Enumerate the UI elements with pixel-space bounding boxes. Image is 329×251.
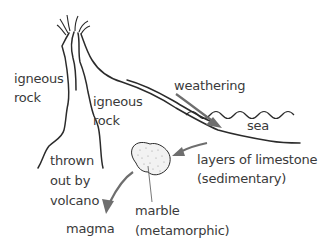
label-line: sea [247, 118, 269, 134]
label-sea: sea [247, 118, 269, 134]
label-line: weathering [174, 78, 245, 94]
label-thrown-out-by-volcano: thrown out by volcano [50, 153, 99, 209]
label-line: rock [14, 90, 64, 106]
marble-rock-icon [132, 142, 171, 202]
label-line: thrown [50, 153, 99, 169]
label-line: igneous [14, 71, 64, 87]
label-weathering: weathering [174, 78, 245, 94]
label-igneous-rock-left: igneous rock [14, 71, 64, 106]
label-marble: marble (metamorphic) [135, 203, 229, 239]
volcano-outline [38, 32, 300, 168]
label-line: volcano [50, 193, 99, 209]
rock-cycle-diagram: igneous rock igneous rock weathering sea… [0, 0, 329, 251]
label-line: (metamorphic) [135, 223, 229, 239]
label-line: rock [93, 113, 143, 129]
marble-to-magma-arrow-icon [102, 172, 133, 214]
label-line: igneous [93, 94, 143, 110]
label-line: (sedimentary) [197, 171, 317, 187]
label-limestone: layers of limestone (sedimentary) [197, 152, 317, 187]
label-line: layers of limestone [197, 152, 317, 168]
label-igneous-rock-right: igneous rock [93, 94, 143, 129]
label-line: magma [66, 221, 115, 237]
label-magma: magma [66, 221, 115, 237]
label-line: out by [50, 173, 99, 189]
label-line: marble [135, 203, 229, 219]
